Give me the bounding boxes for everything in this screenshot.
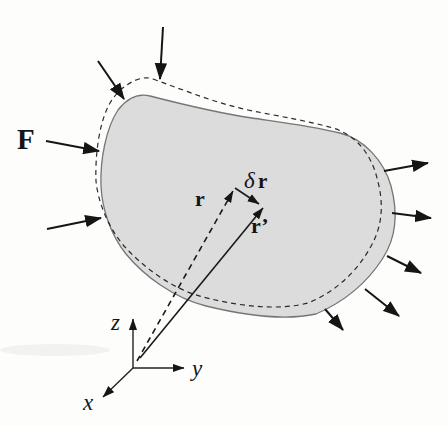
- r-prime-label: r’: [251, 213, 269, 238]
- r-label: r: [195, 186, 205, 211]
- y-axis-label: y: [190, 356, 203, 381]
- delta-r-label: r: [258, 169, 267, 193]
- scan-smudge: [0, 344, 110, 356]
- force-label: F: [17, 123, 35, 155]
- z-axis-label: z: [110, 310, 120, 335]
- x-axis-label: x: [82, 390, 94, 415]
- delta-symbol-label: δ: [244, 168, 255, 193]
- figure-canvas: F r δ r r’ z y x: [0, 0, 448, 426]
